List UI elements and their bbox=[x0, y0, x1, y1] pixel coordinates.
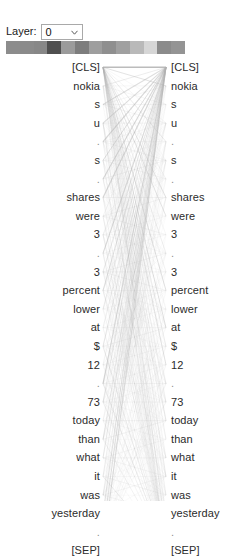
token[interactable]: [SEP] bbox=[71, 541, 100, 560]
token[interactable]: . bbox=[171, 132, 174, 151]
token[interactable]: today bbox=[73, 411, 100, 430]
token[interactable]: 3 bbox=[171, 263, 177, 282]
attention-head-swatch[interactable] bbox=[116, 41, 130, 54]
token[interactable]: [SEP] bbox=[171, 541, 200, 560]
layer-select[interactable]: 0 bbox=[41, 24, 83, 40]
token[interactable]: lower bbox=[171, 300, 198, 319]
token[interactable]: u bbox=[94, 114, 100, 133]
token[interactable]: 3 bbox=[171, 225, 177, 244]
layer-select-value: 0 bbox=[46, 25, 52, 39]
token[interactable]: at bbox=[91, 318, 100, 337]
token[interactable]: was bbox=[171, 486, 191, 505]
token[interactable]: percent bbox=[63, 281, 100, 300]
attention-head-color-strip[interactable] bbox=[6, 41, 185, 54]
token[interactable]: were bbox=[171, 207, 195, 226]
token[interactable]: 3 bbox=[94, 225, 100, 244]
token[interactable]: $ bbox=[171, 337, 177, 356]
token[interactable]: $ bbox=[94, 337, 100, 356]
attention-head-swatch[interactable] bbox=[171, 41, 185, 54]
token[interactable]: what bbox=[171, 448, 195, 467]
token[interactable]: . bbox=[97, 374, 100, 393]
layer-control: Layer: 0 bbox=[6, 23, 83, 40]
token[interactable]: it bbox=[94, 467, 100, 486]
source-token-column[interactable]: [CLS]nokiasu.s.shareswere3.3percentlower… bbox=[28, 56, 100, 560]
token[interactable]: . bbox=[171, 244, 174, 263]
token[interactable]: . bbox=[97, 170, 100, 189]
token[interactable]: 12 bbox=[88, 356, 100, 375]
token[interactable]: s bbox=[171, 95, 177, 114]
token[interactable]: nokia bbox=[73, 77, 100, 96]
attention-head-swatch[interactable] bbox=[144, 41, 158, 54]
attention-head-swatch[interactable] bbox=[102, 41, 116, 54]
attention-head-swatch[interactable] bbox=[47, 41, 61, 54]
token[interactable]: u bbox=[171, 114, 177, 133]
token[interactable]: shares bbox=[66, 188, 100, 207]
attention-visualization: [CLS]nokiasu.s.shareswere3.3percentlower… bbox=[0, 56, 231, 501]
token[interactable]: . bbox=[97, 132, 100, 151]
token[interactable]: s bbox=[171, 151, 177, 170]
token[interactable]: 12 bbox=[171, 356, 183, 375]
token[interactable]: . bbox=[171, 170, 174, 189]
token[interactable]: what bbox=[76, 448, 100, 467]
token[interactable]: . bbox=[171, 374, 174, 393]
attention-head-swatch[interactable] bbox=[130, 41, 144, 54]
attention-head-swatch[interactable] bbox=[61, 41, 75, 54]
attention-head-swatch[interactable] bbox=[20, 41, 34, 54]
attention-head-swatch[interactable] bbox=[157, 41, 171, 54]
token[interactable]: 3 bbox=[94, 263, 100, 282]
token[interactable]: at bbox=[171, 318, 180, 337]
attention-head-swatch[interactable] bbox=[34, 41, 48, 54]
token[interactable]: . bbox=[97, 244, 100, 263]
token[interactable]: . bbox=[97, 523, 100, 542]
token[interactable]: . bbox=[171, 523, 174, 542]
token[interactable]: yesterday bbox=[171, 504, 220, 523]
token[interactable]: nokia bbox=[171, 77, 198, 96]
attention-head-swatch[interactable] bbox=[89, 41, 103, 54]
token[interactable]: yesterday bbox=[51, 504, 100, 523]
token[interactable]: 73 bbox=[88, 393, 100, 412]
layer-label: Layer: bbox=[6, 23, 37, 40]
chevron-down-icon bbox=[71, 30, 78, 35]
token[interactable]: than bbox=[171, 430, 193, 449]
token[interactable]: 73 bbox=[171, 393, 183, 412]
token[interactable]: [CLS] bbox=[171, 58, 199, 77]
token[interactable]: lower bbox=[73, 300, 100, 319]
token[interactable]: it bbox=[171, 467, 177, 486]
token[interactable]: percent bbox=[171, 281, 208, 300]
token[interactable]: shares bbox=[171, 188, 205, 207]
token[interactable]: were bbox=[76, 207, 100, 226]
token[interactable]: s bbox=[94, 95, 100, 114]
token[interactable]: s bbox=[94, 151, 100, 170]
token[interactable]: today bbox=[171, 411, 198, 430]
token[interactable]: than bbox=[78, 430, 100, 449]
attention-head-swatch[interactable] bbox=[75, 41, 89, 54]
attention-head-swatch[interactable] bbox=[6, 41, 20, 54]
target-token-column[interactable]: [CLS]nokiasu.s.shareswere3.3percentlower… bbox=[171, 56, 243, 560]
token[interactable]: [CLS] bbox=[72, 58, 100, 77]
token[interactable]: was bbox=[80, 486, 100, 505]
